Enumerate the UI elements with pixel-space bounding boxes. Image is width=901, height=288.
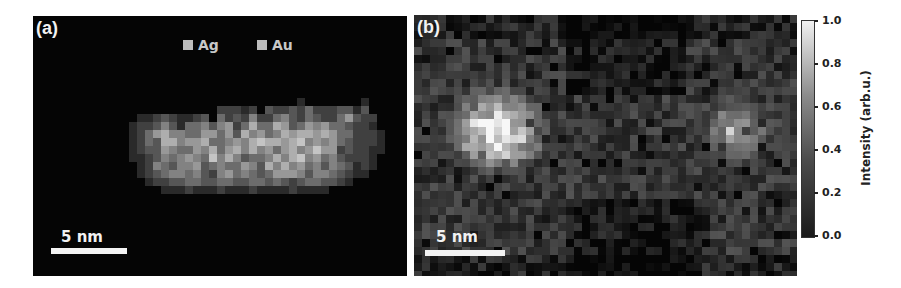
colorbar-tick-label: 0.8 bbox=[822, 58, 842, 69]
colorbar bbox=[801, 20, 815, 238]
panel-label-a: (a) bbox=[36, 18, 58, 39]
colorbar-tick bbox=[814, 235, 818, 237]
colorbar-tick-label: 0.4 bbox=[822, 144, 842, 155]
legend-label-au: Au bbox=[272, 37, 293, 53]
legend-item-au: Au bbox=[257, 37, 293, 53]
panel-a-elemental-map: (a) Ag Au 5 nm bbox=[33, 16, 407, 276]
scalebar-label-b: 5 nm bbox=[436, 228, 478, 246]
scalebar-a bbox=[51, 248, 127, 254]
colorbar-tick-label: 0.0 bbox=[822, 230, 842, 241]
panel-b-intensity-map: (b) 5 nm bbox=[414, 15, 797, 276]
scalebar-label-a: 5 nm bbox=[61, 228, 103, 246]
colorbar-tick bbox=[814, 63, 818, 65]
colorbar-tick bbox=[814, 149, 818, 151]
colorbar-tick bbox=[814, 20, 818, 22]
ag-swatch-icon bbox=[183, 40, 193, 50]
legend-item-ag: Ag bbox=[183, 37, 219, 53]
colorbar-tick-label: 1.0 bbox=[822, 15, 842, 26]
colorbar-tick-label: 0.2 bbox=[822, 187, 842, 198]
colorbar-tick-label: 0.6 bbox=[822, 101, 842, 112]
colorbar-title: Intensity (arb.u.) bbox=[859, 70, 873, 186]
panel-label-b: (b) bbox=[417, 17, 440, 38]
au-swatch-icon bbox=[257, 40, 267, 50]
legend-label-ag: Ag bbox=[198, 37, 219, 53]
scalebar-b bbox=[425, 250, 505, 256]
colorbar-tick bbox=[814, 106, 818, 108]
colorbar-tick bbox=[814, 192, 818, 194]
